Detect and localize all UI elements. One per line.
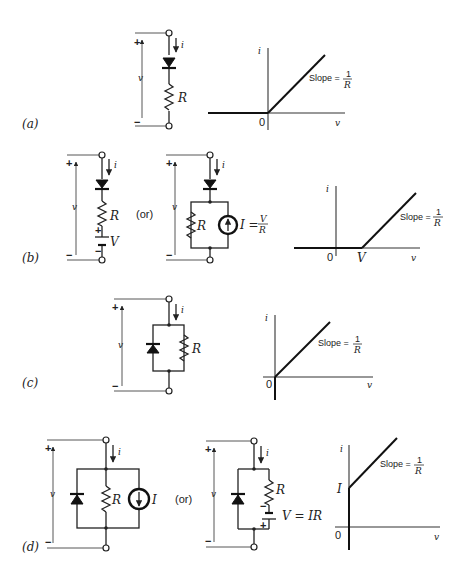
svg-text:1: 1 [417,455,422,465]
svg-text:v: v [367,380,372,390]
current-label: i [181,40,184,50]
svg-text:R: R [191,342,201,356]
circuit-a: + − v R i [134,30,187,129]
svg-text:i: i [181,305,184,315]
svg-text:R: R [353,345,361,355]
svg-text:Slope =: Slope = [400,212,431,222]
svg-text:v: v [434,532,439,542]
svg-text:i: i [222,160,225,170]
graph-c: i v 0 Slope = 1 R [263,313,373,400]
slope-label: Slope = [309,73,340,83]
circuit-d1: + − v R I i [45,437,157,551]
svg-text:+: + [66,157,72,169]
svg-text:−: − [260,500,266,512]
svg-text:V: V [110,235,120,249]
intercept-label: I [336,482,342,496]
terminal-top [166,30,172,36]
svg-text:−: − [95,245,101,257]
svg-text:−: − [66,249,72,261]
panel-b: (b) + − v R + − V [22,152,443,265]
graph-b: i v 0 V Slope = 1 R [294,184,443,265]
svg-text:i: i [118,447,121,457]
svg-text:0: 0 [266,378,272,390]
graph-a: i v 0 Slope = 1 R [208,46,352,130]
svg-text:I =: I = [239,218,259,232]
diode-icon [70,494,84,504]
diode-icon [203,180,217,189]
resistor-icon [165,84,173,110]
origin-label: 0 [259,116,265,128]
svg-text:v: v [211,489,216,499]
svg-text:R: R [196,219,206,233]
plus-sign: + [134,36,140,48]
svg-text:R: R [111,493,121,507]
svg-text:−: − [166,249,172,261]
circuit-c: + − v R i [112,296,201,394]
svg-text:i: i [326,184,329,194]
svg-text:R: R [414,466,422,476]
svg-text:0: 0 [335,529,341,541]
svg-text:v: v [72,202,77,212]
svg-text:i: i [265,313,268,323]
circuit-b1: + − v R + − V i [66,152,120,263]
diode-icon [95,180,109,189]
x-axis-label: v [335,118,340,128]
panel-label-d: (d) [22,540,39,554]
panel-label-a: (a) [22,117,39,131]
svg-text:R: R [258,225,266,235]
panel-c: (c) + − v R i [22,296,373,400]
resistor-icon [102,486,110,512]
svg-text:−: − [205,535,211,547]
svg-text:R: R [109,209,119,223]
svg-text:−: − [112,380,118,392]
terminal-bottom [166,123,172,129]
svg-text:+: + [95,224,101,236]
diode-icon [162,58,176,68]
voltage-label: v [138,73,143,83]
svg-text:1: 1 [355,334,360,344]
graph-d: i v 0 I Slope = 1 R [335,438,440,550]
figure-canvas: (a) + − v R i [0,0,464,570]
svg-text:−: − [45,536,51,548]
svg-text:+: + [45,442,51,454]
or-label: (or) [136,208,153,220]
minus-sign: − [134,116,140,128]
svg-text:R: R [275,483,285,497]
svg-text:i: i [266,448,269,458]
circuit-b2: + − v R I = V R i [166,152,268,263]
y-axis-label: i [258,46,261,56]
svg-text:+: + [112,301,118,313]
svg-text:R: R [343,80,351,90]
svg-text:v: v [50,489,55,499]
svg-text:i: i [340,444,343,454]
svg-text:+: + [260,519,266,531]
svg-text:R: R [433,218,441,228]
or-label: (or) [175,493,192,505]
svg-text:V = IR: V = IR [282,509,322,523]
current-source-icon [219,216,237,234]
svg-text:V: V [260,214,268,224]
svg-text:Slope =: Slope = [318,338,349,348]
resistor-icon [98,201,106,226]
resistor-label: R [177,91,187,105]
circuit-d2: + − v R − + [205,438,322,550]
panel-label-c: (c) [22,376,38,390]
svg-text:I: I [151,493,157,507]
panel-a: (a) + − v R i [22,30,352,131]
diode-icon [231,494,245,504]
knee-label: V [357,251,367,265]
current-source-icon [129,489,149,509]
panel-d: (d) + − v R [22,437,440,554]
svg-text:+: + [205,443,211,455]
svg-text:v: v [118,340,123,350]
svg-text:v: v [172,202,177,212]
svg-text:1: 1 [436,207,441,217]
svg-text:+: + [166,157,172,169]
svg-text:1: 1 [346,69,351,79]
svg-text:i: i [114,160,117,170]
svg-text:0: 0 [327,251,333,263]
battery-icon [95,237,109,245]
panel-label-b: (b) [22,251,39,265]
diode-icon [146,344,160,353]
svg-text:Slope =: Slope = [380,459,411,469]
